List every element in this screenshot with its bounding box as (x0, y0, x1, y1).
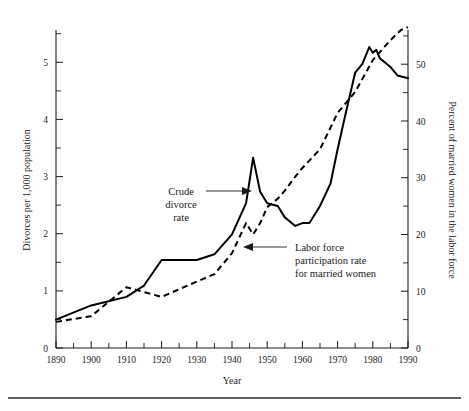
x-tick-label-1920: 1920 (152, 355, 171, 365)
x-tick-label-1910: 1910 (117, 355, 136, 365)
crude-annotation-line-3: rate (173, 212, 189, 223)
left-tick-label-4: 4 (43, 115, 48, 125)
labor-annotation-line-1: Labor force (295, 242, 345, 253)
labor-annotation-line-2: participation rate (295, 255, 367, 266)
crude-annotation-line-2: divorce (165, 199, 197, 210)
left-tick-label-1: 1 (43, 286, 48, 296)
right-tick-label-30: 30 (416, 173, 426, 183)
left-axis-title: Divorces per 1,000 population (21, 129, 32, 251)
right-axis-title: Percent of married women in the labor fo… (447, 101, 458, 279)
left-tick-label-2: 2 (43, 229, 48, 239)
left-tick-label-5: 5 (43, 58, 48, 68)
x-tick-label-1960: 1960 (293, 355, 312, 365)
x-tick-label-1950: 1950 (258, 355, 277, 365)
x-tick-label-1930: 1930 (187, 355, 206, 365)
bottom-axis-ticks (56, 341, 408, 348)
x-tick-label-1940: 1940 (223, 355, 242, 365)
right-tick-label-40: 40 (416, 117, 426, 127)
bottom-axis-tick-labels: 1890 1900 1910 1920 1930 1940 1950 1960 … (47, 355, 418, 365)
labor-annotation-line-3: for married women (295, 268, 377, 279)
crude-annotation-line-1: Crude (168, 186, 194, 197)
left-tick-label-0: 0 (43, 344, 48, 354)
right-tick-label-20: 20 (416, 230, 426, 240)
left-axis-tick-labels: 0 1 2 3 4 5 (43, 58, 48, 354)
right-axis-tick-labels: 0 10 20 30 40 50 (416, 60, 426, 354)
right-tick-label-50: 50 (416, 60, 426, 70)
right-axis-ticks (401, 36, 408, 348)
left-axis-ticks (56, 34, 63, 348)
x-tick-label-1970: 1970 (328, 355, 347, 365)
annotation-labor-force: Labor force participation rate for marri… (243, 242, 377, 279)
x-tick-label-1890: 1890 (47, 355, 66, 365)
x-axis-title: Year (223, 375, 242, 386)
x-tick-label-1980: 1980 (363, 355, 382, 365)
x-tick-label-1900: 1900 (82, 355, 101, 365)
right-tick-label-0: 0 (416, 344, 421, 354)
divorce-labor-force-chart: 0 1 2 3 4 5 Divorces per 1,000 populatio… (0, 0, 469, 411)
right-tick-label-10: 10 (416, 287, 426, 297)
figure-container: 0 1 2 3 4 5 Divorces per 1,000 populatio… (0, 0, 469, 411)
x-tick-label-1990: 1990 (399, 355, 418, 365)
left-tick-label-3: 3 (43, 172, 48, 182)
labor-annotation-arrowhead (243, 243, 253, 251)
